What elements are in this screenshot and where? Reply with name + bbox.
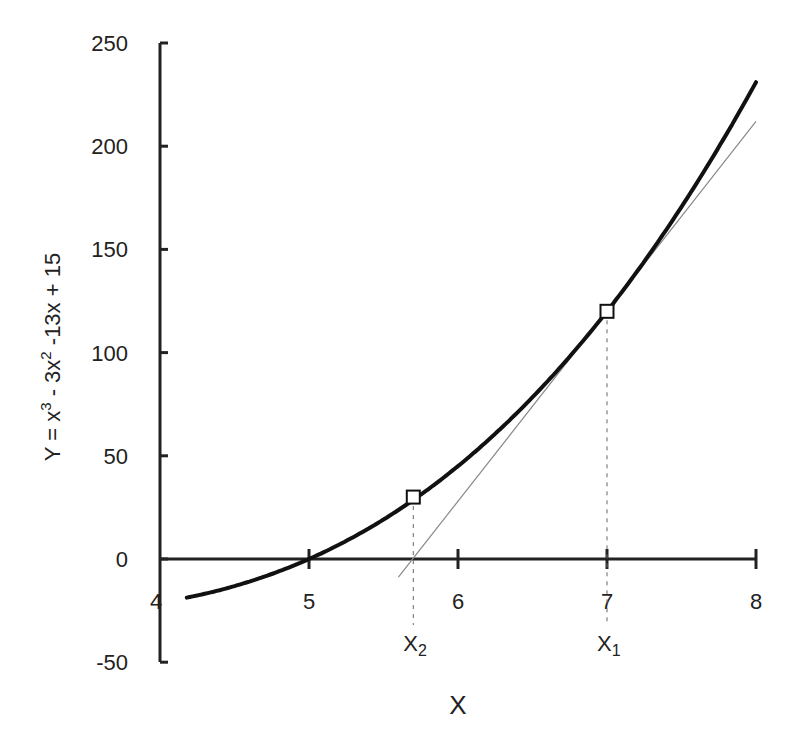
y-tick-label: 150	[91, 237, 128, 262]
y-tick-label: 50	[104, 444, 128, 469]
function-curve	[187, 82, 756, 597]
y-tick-label: 0	[116, 547, 128, 572]
chart-canvas: -50050100150200250 45678 X Y = x3 - 3x2 …	[0, 0, 790, 756]
y-axis-ticks: -50050100150200250	[91, 31, 168, 675]
point-markers	[407, 305, 614, 504]
label-x2: X2	[403, 631, 427, 659]
y-tick-label: -50	[96, 650, 128, 675]
y-axis-title: Y = x3 - 3x2 -13x + 15	[37, 253, 65, 461]
label-x1: X1	[597, 631, 621, 659]
x-tick-label: 4	[150, 589, 162, 614]
x-axis-title: X	[449, 690, 466, 720]
x-tick-label: 8	[750, 589, 762, 614]
point-labels: X1X2	[403, 631, 620, 659]
marker-x2	[407, 491, 420, 504]
y-tick-label: 100	[91, 341, 128, 366]
x-tick-label: 6	[452, 589, 464, 614]
y-tick-label: 250	[91, 31, 128, 56]
drop-lines	[413, 311, 607, 625]
y-tick-label: 200	[91, 134, 128, 159]
marker-x1	[601, 305, 614, 318]
x-tick-label: 5	[303, 589, 315, 614]
